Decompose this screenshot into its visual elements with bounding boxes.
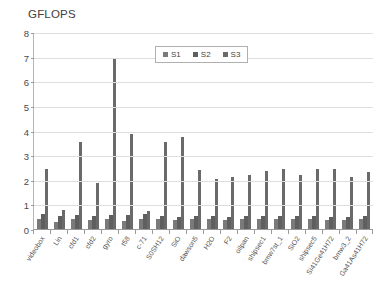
x-label-cell: gyro <box>101 234 118 294</box>
x-label-cell: bmw7st_1 <box>271 234 288 294</box>
x-axis-category-label-text: SiO2 <box>286 235 300 252</box>
bar-s3 <box>215 179 218 229</box>
legend-item-s3: S3 <box>223 50 241 59</box>
bar-s3 <box>113 58 116 229</box>
y-axis-tick-label: 8 <box>24 28 29 39</box>
gridline <box>34 205 373 206</box>
gridline <box>34 156 373 157</box>
y-axis-tick-mark <box>31 82 34 83</box>
x-label-cell: c-71 <box>135 234 152 294</box>
x-label-cell: t58 <box>118 234 135 294</box>
legend-swatch-icon <box>193 52 198 57</box>
bar-s3 <box>62 210 65 229</box>
y-axis-tick-mark <box>31 33 34 34</box>
y-axis-tick-mark <box>31 132 34 133</box>
bar-s3 <box>181 137 184 229</box>
x-label-cell: Lin <box>50 234 67 294</box>
x-label-cell: F2 <box>220 234 237 294</box>
y-axis-tick-mark <box>31 58 34 59</box>
x-label-cell: Ga41As41H72 <box>356 234 373 294</box>
x-label-cell: S0SH12 <box>152 234 169 294</box>
legend-swatch-icon <box>223 52 228 57</box>
x-label-cell: H2O <box>203 234 220 294</box>
y-axis-tick-mark <box>31 156 34 157</box>
bar-s3 <box>45 169 48 229</box>
x-axis-category-label-text: gyro <box>100 235 113 250</box>
y-axis-tick-label: 2 <box>24 175 29 186</box>
bar-s3 <box>248 175 251 229</box>
bar-s3 <box>231 177 234 229</box>
x-label-cell: cfd2 <box>84 234 101 294</box>
gridline <box>34 82 373 83</box>
legend-label: S2 <box>201 50 211 59</box>
x-label-cell: Si41Ge41H72 <box>322 234 339 294</box>
y-axis-tick-label: 5 <box>24 101 29 112</box>
y-axis-tick-label: 1 <box>24 200 29 211</box>
x-label-cell: SiO2 <box>288 234 305 294</box>
x-axis-category-label-text: t58 <box>119 235 130 247</box>
x-label-cell: cfd1 <box>67 234 84 294</box>
y-axis-tick-label: 3 <box>24 151 29 162</box>
legend-label: S3 <box>231 50 241 59</box>
x-axis-category-label-text: videobox <box>24 235 45 262</box>
legend-item-s2: S2 <box>193 50 211 59</box>
y-axis-tick-mark <box>31 107 34 108</box>
y-axis-tick-mark <box>31 205 34 206</box>
x-axis-category-label-text: F2 <box>222 235 232 246</box>
x-axis-category-label-text: cfd2 <box>83 235 96 250</box>
gridline <box>34 107 373 108</box>
gridline <box>34 132 373 133</box>
x-axis-category-label-text: Lin <box>51 235 62 247</box>
x-label-cell: SiO <box>169 234 186 294</box>
y-axis-tick-label: 4 <box>24 126 29 137</box>
bar-s3 <box>79 142 82 229</box>
gridline <box>34 33 373 34</box>
bar-s3 <box>316 169 319 229</box>
bar-s3 <box>198 170 201 229</box>
chart-title: GFLOPS <box>28 8 76 20</box>
bar-s3 <box>282 169 285 229</box>
x-label-cell: oilpan <box>237 234 254 294</box>
y-axis-tick-label: 0 <box>24 225 29 236</box>
y-axis-tick-mark <box>31 181 34 182</box>
x-label-cell: shipsec1 <box>254 234 271 294</box>
bar-s3 <box>333 169 336 229</box>
legend-label: S1 <box>171 50 181 59</box>
bar-s3 <box>164 142 167 229</box>
x-axis-category-label-text: cfd1 <box>66 235 79 250</box>
bar-s3 <box>299 175 302 229</box>
y-axis-tick-label: 7 <box>24 52 29 63</box>
x-label-cell: dawson5 <box>186 234 203 294</box>
legend-swatch-icon <box>163 52 168 57</box>
y-axis-tick-label: 6 <box>24 77 29 88</box>
x-axis-labels: videoboxLincfd1cfd2gyrot58c-71S0SH12SiOd… <box>33 234 373 294</box>
x-axis-category-label-text: c-71 <box>134 235 147 250</box>
x-axis-category-label-text: H2O <box>202 235 216 251</box>
chart-legend: S1S2S3 <box>155 46 248 63</box>
x-label-cell: videobox <box>33 234 50 294</box>
gridline <box>34 181 373 182</box>
legend-item-s1: S1 <box>163 50 181 59</box>
x-axis-category-label-text: SiO <box>169 235 181 249</box>
gflops-bar-chart: GFLOPS 012345678 videoboxLincfd1cfd2gyro… <box>0 0 391 296</box>
